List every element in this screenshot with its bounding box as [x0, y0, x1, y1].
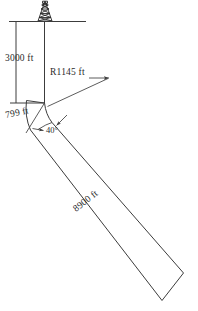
radius-label: R1145 ft	[50, 67, 85, 77]
angle-reference-line-left	[26, 103, 45, 133]
tangent-bottom-cap	[162, 273, 184, 301]
tangent-lower-edge	[31, 130, 163, 301]
well-profile-diagram: 3000 ft R1145 ft 799 ft 40° 8900 ft	[0, 0, 198, 311]
tangent-upper-edge	[52, 123, 184, 274]
tangent-length-label: 8900 ft	[71, 188, 100, 214]
drilling-rig-icon	[38, 1, 52, 21]
well-schematic-svg: 3000 ft R1145 ft 799 ft 40° 8900 ft	[0, 0, 198, 311]
angle-leader-arrow-icon	[33, 129, 44, 131]
tangent-leader-arrow-icon	[57, 115, 68, 126]
inclination-angle-label: 40°	[46, 125, 58, 135]
radius-leader-line	[48, 79, 109, 107]
build-arc-label: 799 ft	[4, 105, 29, 120]
vertical-depth-label: 3000 ft	[5, 53, 34, 63]
